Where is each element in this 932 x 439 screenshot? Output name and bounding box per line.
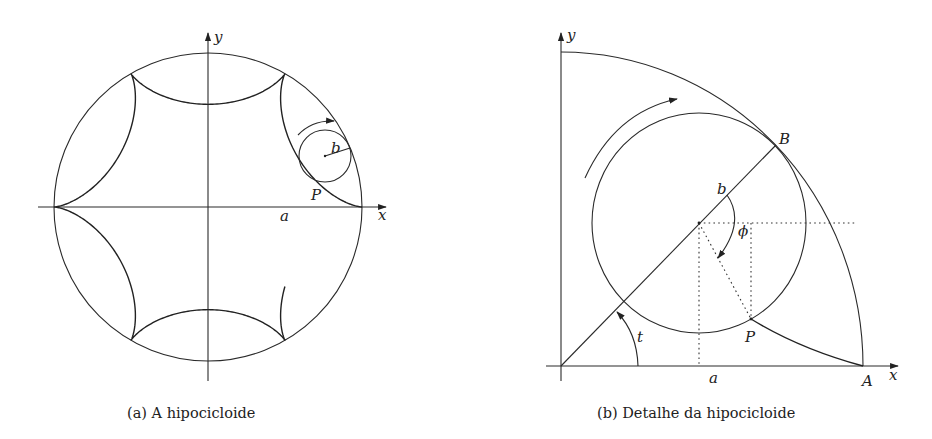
A-label-b: A [860, 372, 873, 390]
t-label-b: t [637, 328, 644, 346]
x-label-a: x [378, 206, 387, 224]
p-dot-b [750, 318, 753, 321]
rotation-arrow-icon-a [298, 121, 334, 135]
b-label-a: b [331, 139, 341, 157]
caption-a: (a) A hipocicloide [127, 405, 255, 421]
figure-a-hypocycloid: y x a b P (a) A hipocicloide [38, 28, 387, 421]
phi-angle-arrow-icon [718, 195, 735, 258]
a-label-a: a [280, 207, 289, 225]
t-angle-arrow-icon [617, 312, 638, 366]
p-label-a: P [310, 186, 322, 204]
y-label-a: y [213, 28, 223, 46]
caption-b: (b) Detalhe da hipocicloide [597, 405, 795, 421]
a-label-b: a [709, 369, 718, 387]
figure-canvas: y x a b P (a) A hipocicloide y x a b B A… [0, 0, 932, 439]
B-label-b: B [778, 130, 790, 148]
y-label-b: y [566, 26, 576, 44]
hypocycloid-arc-pa-b [751, 319, 863, 366]
b-label-b: b [717, 180, 727, 198]
x-label-b: x [889, 366, 898, 384]
diagonal-line-b [561, 145, 776, 366]
center-dot-b [698, 222, 701, 225]
phi-label-b: ϕ [738, 222, 748, 240]
hypocycloid-partial-arc-a [281, 286, 285, 340]
P-label-b: P [744, 328, 756, 346]
rolling-center-dot-a [324, 155, 326, 157]
figure-b-detail: y x a b B A P t ϕ (b) Detalhe da hipocic… [546, 26, 898, 421]
